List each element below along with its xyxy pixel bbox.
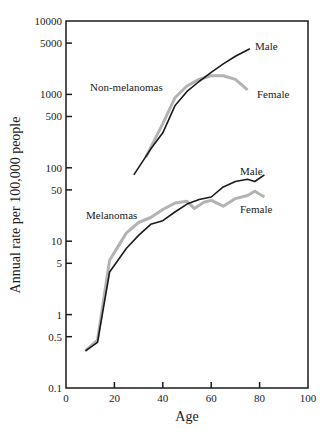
label-nm-female: Female xyxy=(257,88,289,100)
y-tick-label: 0.1 xyxy=(48,382,62,394)
label-nm-male: Male xyxy=(255,40,278,52)
series-non-melanomas-male xyxy=(134,49,250,175)
x-tick-label: 100 xyxy=(300,392,317,404)
x-tick-label: 60 xyxy=(206,392,218,404)
x-tick-label: 40 xyxy=(157,392,169,404)
x-tick-label: 20 xyxy=(109,392,121,404)
series-melanomas-male xyxy=(85,175,264,351)
x-tick-label: 0 xyxy=(63,392,69,404)
y-tick-label: 10000 xyxy=(35,15,63,27)
y-tick-label: 10 xyxy=(51,235,63,247)
y-tick-label: 5 xyxy=(57,257,63,269)
y-axis-title: Annual rate per 100,000 people xyxy=(8,117,23,294)
y-tick-label: 1 xyxy=(57,309,63,321)
label-m-male: Male xyxy=(240,165,263,177)
y-tick-label: 100 xyxy=(46,162,63,174)
series-lines xyxy=(85,49,264,351)
label-melanomas: Melanomas xyxy=(86,209,137,221)
chart-canvas: 0.10.51510501005001000500010000020406080… xyxy=(0,0,333,441)
x-axis-title: Age xyxy=(175,409,198,424)
y-tick-label: 500 xyxy=(46,110,63,122)
axis-ticks: 0.10.51510501005001000500010000020406080… xyxy=(35,15,317,404)
x-tick-label: 80 xyxy=(254,392,266,404)
label-non-melanomas: Non-melanomas xyxy=(90,81,163,93)
y-tick-label: 1000 xyxy=(40,88,63,100)
y-tick-label: 50 xyxy=(51,184,63,196)
label-m-female: Female xyxy=(240,203,272,215)
y-tick-label: 0.5 xyxy=(48,331,62,343)
y-tick-label: 5000 xyxy=(40,37,63,49)
